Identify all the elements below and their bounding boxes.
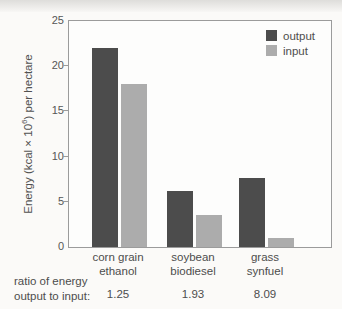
category-label-line1: grass — [220, 250, 310, 264]
energy-bar-chart-figure: Energy (kcal × 106) per hectare 05101520… — [0, 0, 342, 309]
bar-output-grass — [239, 178, 265, 247]
y-tick-label-15: 15 — [34, 105, 64, 116]
y-tick-label-20: 20 — [34, 60, 64, 71]
y-axis-label-prefix: Energy (kcal × 10 — [22, 124, 34, 214]
ratio-value-corn-grain: 1.25 — [88, 288, 148, 300]
bar-input-corn-grain — [121, 84, 147, 247]
legend-swatch-input — [266, 45, 277, 56]
y-tick-label-5: 5 — [34, 196, 64, 207]
y-axis-label-suffix: ) per hectare — [22, 54, 34, 119]
y-axis-label-exponent: 6 — [20, 119, 29, 123]
bar-output-corn-grain — [92, 48, 118, 247]
ratio-value-grass: 8.09 — [235, 288, 295, 300]
bar-output-soybean — [167, 191, 193, 247]
ratio-value-soybean: 1.93 — [163, 288, 223, 300]
ratio-caption-line1: ratio of energy — [14, 274, 90, 289]
legend-label-input: input — [283, 45, 308, 57]
y-tick-label-25: 25 — [34, 15, 64, 26]
ratio-caption: ratio of energy output to input: — [14, 274, 90, 303]
page-edge-shading — [0, 0, 342, 12]
legend-label-output: output — [283, 30, 315, 42]
legend: outputinput — [266, 28, 315, 58]
category-label-grass: grasssynfuel — [220, 250, 310, 278]
ratio-caption-line2: output to input: — [14, 289, 90, 304]
bar-input-soybean — [196, 215, 222, 247]
y-tick-label-10: 10 — [34, 151, 64, 162]
plot-area: outputinput — [68, 20, 332, 248]
y-tick-label-0: 0 — [34, 241, 64, 252]
bar-input-grass — [268, 238, 294, 247]
category-label-line2: synfuel — [220, 264, 310, 278]
legend-item-input: input — [266, 43, 315, 58]
legend-item-output: output — [266, 28, 315, 43]
legend-swatch-output — [266, 30, 277, 41]
